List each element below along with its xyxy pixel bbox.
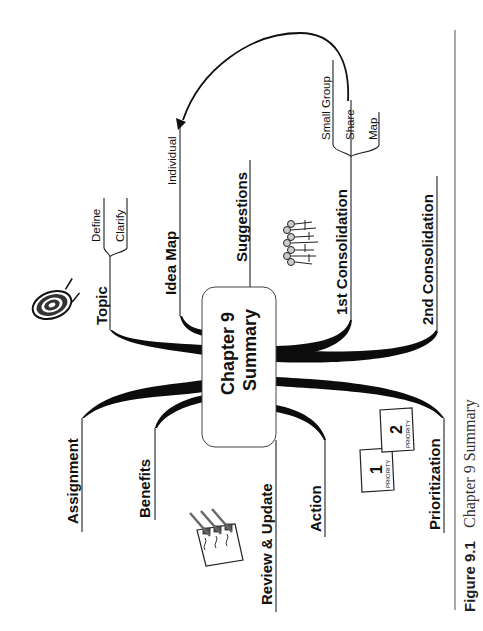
mind-map-figure: Figure 9.1 Chapter 9 Summary Chapter 9 S… bbox=[0, 0, 483, 631]
label-small-group: Small Group bbox=[320, 76, 332, 140]
label-clarify: Clarify bbox=[114, 209, 126, 242]
label-action: Action bbox=[307, 485, 324, 532]
label-first-consolidation: 1st Consolidation bbox=[333, 189, 350, 315]
svg-text:2: 2 bbox=[388, 425, 405, 434]
label-benefits: Benefits bbox=[136, 459, 153, 518]
svg-text:1: 1 bbox=[368, 465, 385, 474]
first-consolidation-fork bbox=[333, 60, 379, 157]
branch-idea-map bbox=[180, 316, 204, 336]
label-idea-map: Idea Map bbox=[162, 231, 179, 295]
figure-caption: Figure 9.1 Chapter 9 Summary bbox=[461, 399, 479, 612]
label-second-consolidation: 2nd Consolidation bbox=[419, 194, 436, 325]
branch-benefits bbox=[155, 395, 204, 428]
branch-assignment bbox=[82, 380, 204, 418]
label-review-update: Review & Update bbox=[258, 483, 275, 605]
priority-notes-icon: 1 PRIORITY 2 PRIORITY bbox=[360, 408, 414, 492]
branch-topic bbox=[110, 330, 204, 355]
label-share: Share bbox=[344, 109, 356, 140]
arrowhead-icon bbox=[176, 118, 186, 130]
label-map: Map bbox=[367, 118, 379, 140]
caption-title: Chapter 9 Summary bbox=[461, 399, 479, 528]
priority-1-note: 1 PRIORITY bbox=[360, 448, 394, 492]
target-icon bbox=[27, 278, 85, 324]
branch-prioritization bbox=[276, 377, 444, 418]
label-assignment: Assignment bbox=[64, 438, 81, 524]
branch-action bbox=[276, 405, 326, 440]
central-topic-line1: Chapter 9 bbox=[218, 312, 238, 395]
svg-text:PRIORITY: PRIORITY bbox=[405, 420, 411, 448]
svg-text:PRIORITY: PRIORITY bbox=[385, 460, 391, 488]
caption-label: Figure 9.1 bbox=[461, 541, 478, 612]
people-group-icon bbox=[284, 220, 319, 266]
checklist-icon bbox=[190, 509, 243, 566]
central-topic-box bbox=[202, 287, 276, 447]
label-topic: Topic bbox=[93, 286, 110, 325]
priority-2-note: 2 PRIORITY bbox=[380, 408, 414, 452]
label-prioritization: Prioritization bbox=[426, 438, 443, 530]
label-define: Define bbox=[90, 209, 102, 242]
label-suggestions: Suggestions bbox=[233, 172, 250, 262]
label-individual: Individual bbox=[166, 136, 178, 185]
central-topic-line2: Summary bbox=[240, 309, 260, 391]
